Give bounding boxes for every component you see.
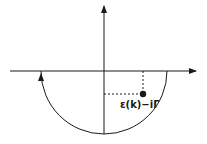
- diagram-canvas: ε(k)−iΓ: [0, 0, 207, 144]
- pole-label: ε(k)−iΓ: [120, 99, 160, 110]
- contour-direction-arrow-icon: [38, 73, 44, 81]
- pole-point: [140, 91, 146, 97]
